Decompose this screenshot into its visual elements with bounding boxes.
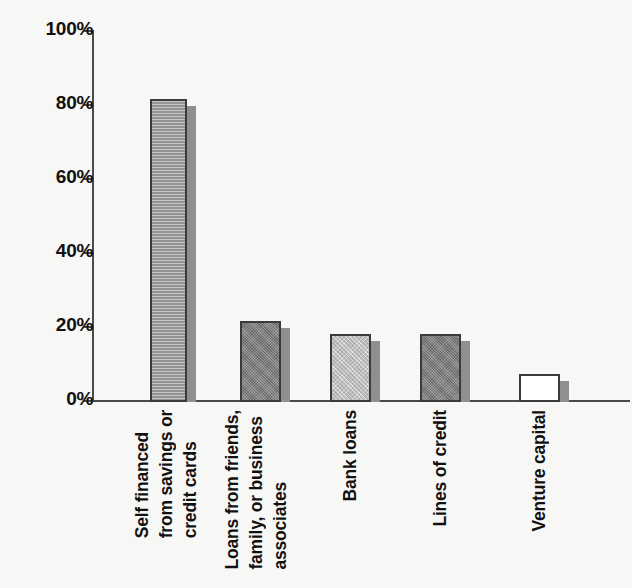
x-label-bank-loans: Bank loans <box>340 410 364 501</box>
x-label-line: from savings or <box>156 410 177 538</box>
y-tick-label: 0% <box>15 388 93 410</box>
chart-page: 100% 80% 60% 40% 20% 0% <box>0 0 632 588</box>
y-tick-100: 100% <box>0 30 93 32</box>
x-label-line: credit cards <box>180 410 201 538</box>
bar-body[interactable] <box>519 374 560 402</box>
y-tick-label: 80% <box>15 92 93 114</box>
y-tick-0: 0% <box>0 400 93 402</box>
y-tick-label: 40% <box>15 240 93 262</box>
y-tick-label: 20% <box>15 314 93 336</box>
x-label-line: Lines of credit <box>430 410 451 527</box>
bar-body[interactable] <box>330 334 371 402</box>
x-label-line: associates <box>270 410 291 570</box>
bar-body[interactable] <box>420 334 461 402</box>
y-tick-20: 20% <box>0 326 93 328</box>
y-tick-80: 80% <box>0 104 93 106</box>
x-label-venture-capital: Venture capital <box>529 410 553 532</box>
bar-chart: 100% 80% 60% 40% 20% 0% <box>0 0 632 588</box>
y-tick-60: 60% <box>0 178 93 180</box>
y-tick-40: 40% <box>0 252 93 254</box>
x-label-line: Self financed <box>132 410 153 538</box>
x-label-loans-friends-family: Loans from friends, family, or business … <box>222 410 294 570</box>
y-tick-label: 60% <box>15 166 93 188</box>
y-axis-line <box>92 30 94 402</box>
x-label-line: Bank loans <box>340 410 361 501</box>
bar-body[interactable] <box>150 99 187 402</box>
x-label-line: family, or business <box>246 410 267 570</box>
x-label-lines-of-credit: Lines of credit <box>430 410 454 527</box>
x-label-line: Loans from friends, <box>222 410 243 570</box>
y-tick-label: 100% <box>15 18 93 40</box>
x-label-self-financed: Self financed from savings or credit car… <box>132 410 204 538</box>
bar-body[interactable] <box>240 321 281 402</box>
x-label-line: Venture capital <box>529 410 550 532</box>
